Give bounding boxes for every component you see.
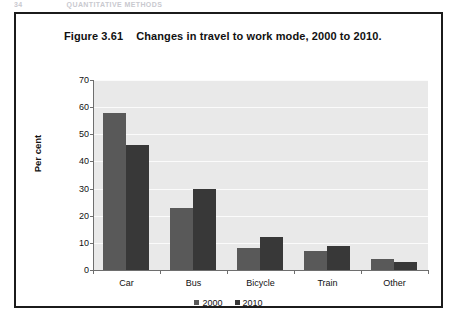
y-axis-tick-mark bbox=[90, 161, 94, 162]
figure-caption: Changes in travel to work mode, 2000 to … bbox=[136, 30, 381, 42]
bar-bicycle-2010 bbox=[260, 237, 283, 270]
page-folio: 34 bbox=[14, 1, 23, 8]
legend-label-2000: 2000 bbox=[202, 298, 222, 308]
x-axis-tick-mark bbox=[227, 270, 228, 274]
bar-group bbox=[294, 80, 361, 270]
bar-group bbox=[160, 80, 227, 270]
x-axis-label-car: Car bbox=[92, 278, 162, 288]
figure-number: Figure 3.61 bbox=[64, 30, 123, 42]
y-axis-tick-label: 10 bbox=[65, 239, 89, 248]
y-axis-tick-label: 60 bbox=[65, 103, 89, 112]
y-axis-title: Per cent bbox=[32, 119, 43, 189]
bar-bus-2010 bbox=[193, 189, 216, 270]
y-axis-tick-labels: 010203040506070 bbox=[63, 80, 89, 270]
y-axis-tick-label: 0 bbox=[65, 266, 89, 275]
y-axis-tick-label: 70 bbox=[65, 76, 89, 85]
legend-label-2010: 2010 bbox=[243, 298, 263, 308]
y-axis-tick-label: 20 bbox=[65, 212, 89, 221]
bar-car-2010 bbox=[126, 145, 149, 270]
bar-train-2010 bbox=[327, 246, 350, 270]
x-axis-label-other: Other bbox=[360, 278, 430, 288]
bar-train-2000 bbox=[304, 251, 327, 270]
y-axis-tick-mark bbox=[90, 80, 94, 81]
bar-car-2000 bbox=[103, 113, 126, 270]
running-head-text: QUANTITATIVE METHODS bbox=[67, 1, 163, 8]
bar-other-2000 bbox=[371, 259, 394, 270]
x-axis-tick-mark bbox=[160, 270, 161, 274]
bar-group bbox=[93, 80, 160, 270]
page-running-header: 34QUANTITATIVE METHODS bbox=[14, 0, 434, 9]
bar-group bbox=[361, 80, 428, 270]
x-axis-tick-mark bbox=[428, 270, 429, 274]
x-axis-tick-mark bbox=[294, 270, 295, 274]
chart-legend: 20002010 bbox=[16, 298, 441, 308]
legend-swatch-2010 bbox=[235, 300, 240, 305]
figure-frame: Figure 3.61Changes in travel to work mod… bbox=[14, 12, 443, 308]
y-axis-tick-mark bbox=[90, 189, 94, 190]
bar-bus-2000 bbox=[170, 208, 193, 270]
y-axis-tick-mark bbox=[90, 134, 94, 135]
bar-group bbox=[227, 80, 294, 270]
bar-other-2010 bbox=[394, 262, 417, 270]
y-axis-tick-mark bbox=[90, 243, 94, 244]
y-axis-tick-mark bbox=[90, 107, 94, 108]
legend-entry-2000[interactable]: 2000 bbox=[194, 298, 222, 308]
bar-bicycle-2000 bbox=[237, 248, 260, 270]
x-axis-label-bus: Bus bbox=[159, 278, 229, 288]
y-axis-tick-label: 50 bbox=[65, 130, 89, 139]
y-axis-tick-label: 30 bbox=[65, 185, 89, 194]
x-axis-tick-mark bbox=[361, 270, 362, 274]
x-axis-label-train: Train bbox=[293, 278, 363, 288]
y-axis-tick-mark bbox=[90, 216, 94, 217]
x-axis-label-bicycle: Bicycle bbox=[226, 278, 296, 288]
legend-swatch-2000 bbox=[194, 300, 199, 305]
bar-chart: Per cent 010203040506070 CarBusBicycleTr… bbox=[16, 56, 441, 306]
x-axis-line bbox=[93, 270, 429, 271]
figure-title: Figure 3.61Changes in travel to work mod… bbox=[64, 30, 382, 42]
legend-entry-2010[interactable]: 2010 bbox=[235, 298, 263, 308]
y-axis-tick-label: 40 bbox=[65, 157, 89, 166]
x-axis-tick-mark bbox=[93, 270, 94, 274]
